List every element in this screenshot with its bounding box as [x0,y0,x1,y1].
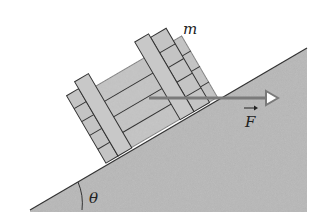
mass-label: m [183,20,197,38]
angle-label: θ [89,189,98,207]
force-label-text: F [244,113,256,131]
diagram-canvas: θ m F [0,0,325,219]
